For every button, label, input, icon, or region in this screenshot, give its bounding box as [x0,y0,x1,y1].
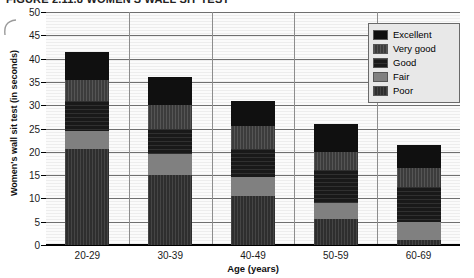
bar-30-39 [148,77,192,245]
y-tick-label: 35 [0,76,40,87]
y-tick-mark [41,12,46,13]
bar-segment-poor [231,196,275,245]
x-tick-label: 30-39 [157,250,183,261]
bar-60-69 [397,145,441,245]
legend-label: Very good [393,43,436,54]
chart-legend: ExcellentVery goodGoodFairPoor [368,23,460,103]
y-tick-label: 20 [0,146,40,157]
gridline-vertical [129,12,130,245]
chart-title: FIGURE 2.11.8 WOMEN'S WALL SIT TEST [6,0,229,5]
x-tick-label: 40-49 [240,250,266,261]
legend-label: Good [393,57,416,68]
y-tick-label: 30 [0,100,40,111]
bar-segment-poor [148,175,192,245]
bar-50-59 [314,124,358,245]
y-tick-label: 10 [0,193,40,204]
legend-label: Poor [393,85,413,96]
bar-segment-very-good [314,152,358,171]
bar-segment-very-good [65,80,109,101]
legend-swatch-icon [373,30,388,40]
y-tick-mark [41,59,46,60]
bar-segment-excellent [65,52,109,80]
bar-segment-very-good [231,126,275,149]
legend-swatch-icon [373,72,388,82]
legend-item-poor[interactable]: Poor [373,84,455,97]
y-tick-mark [41,105,46,106]
bar-segment-excellent [231,101,275,127]
bar-segment-fair [231,177,275,196]
y-tick-mark [41,35,46,36]
legend-label: Excellent [393,29,432,40]
y-tick-mark [41,152,46,153]
gridline-horizontal [46,12,460,13]
bar-segment-fair [314,203,358,219]
y-tick-label: 5 [0,216,40,227]
y-tick-mark [41,175,46,176]
x-tick-label: 50-59 [323,250,349,261]
y-tick-mark [41,222,46,223]
legend-item-verygood[interactable]: Very good [373,42,455,55]
legend-swatch-icon [373,58,388,68]
bar-segment-very-good [148,105,192,128]
x-axis-title: Age (years) [46,263,460,274]
legend-item-good[interactable]: Good [373,56,455,69]
bar-segment-poor [65,149,109,245]
bar-segment-poor [397,240,441,245]
y-tick-mark [41,245,46,246]
legend-item-excellent[interactable]: Excellent [373,28,455,41]
bar-20-29 [65,52,109,245]
x-tick-label: 20-29 [75,250,101,261]
legend-swatch-icon [373,86,388,96]
gridline-vertical [212,12,213,245]
bar-segment-good [148,129,192,155]
bar-40-49 [231,101,275,245]
bar-segment-excellent [397,145,441,168]
legend-label: Fair [393,71,409,82]
y-tick-mark [41,129,46,130]
legend-swatch-icon [373,44,388,54]
bar-segment-good [314,170,358,203]
y-tick-label: 25 [0,123,40,134]
y-tick-mark [41,82,46,83]
bar-segment-good [65,101,109,131]
legend-item-fair[interactable]: Fair [373,70,455,83]
bar-segment-good [231,149,275,177]
y-tick-label: 40 [0,53,40,64]
y-tick-mark [41,198,46,199]
bar-segment-excellent [148,77,192,105]
chart-figure: FIGURE 2.11.8 WOMEN'S WALL SIT TEST Wome… [0,0,474,278]
gridline-vertical [294,12,295,245]
x-tick-label: 60-69 [406,250,432,261]
bar-segment-excellent [314,124,358,152]
y-tick-label: 50 [0,7,40,18]
bar-segment-fair [65,131,109,150]
y-tick-label: 15 [0,170,40,181]
y-tick-label: 45 [0,30,40,41]
bar-segment-fair [148,154,192,175]
y-tick-label: 0 [0,240,40,251]
bar-segment-poor [314,219,358,245]
bar-segment-very-good [397,168,441,187]
bar-segment-fair [397,222,441,241]
bar-segment-good [397,187,441,222]
